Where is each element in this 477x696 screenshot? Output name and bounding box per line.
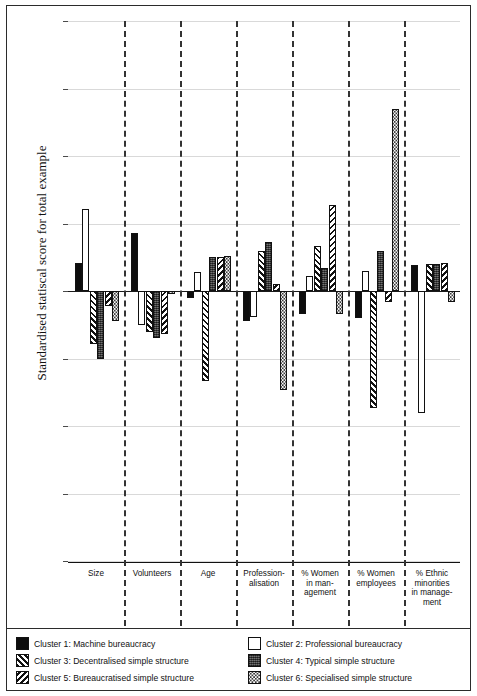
- y-tick-mark: [63, 89, 68, 90]
- y-tick-mark: [63, 494, 68, 495]
- category-label-line: Age: [180, 569, 236, 579]
- y-tick-mark: [63, 224, 68, 225]
- legend-swatch-c5-icon: [16, 671, 29, 684]
- category-label-line: Size: [68, 569, 124, 579]
- y-tick-mark: [63, 561, 68, 562]
- legend-swatch-c3-icon: [16, 654, 29, 667]
- category-label-line: agement: [292, 588, 348, 598]
- group-separator-4: [292, 21, 294, 626]
- bar-c2-group-4: [250, 291, 257, 317]
- bar-c4-group-2: [153, 291, 160, 338]
- bar-c4-group-1: [97, 291, 104, 359]
- category-label-5: % Womenin man-agement: [292, 569, 348, 598]
- category-label-3: Age: [180, 569, 236, 579]
- bar-c5-group-6: [385, 291, 392, 302]
- gridline: [68, 561, 460, 562]
- group-separator-3: [236, 21, 238, 626]
- category-label-line: employees: [348, 579, 404, 589]
- category-label-line: ment: [404, 598, 460, 608]
- bar-c5-group-1: [105, 291, 112, 306]
- category-label-7: % Ethnicminoritiesin manage-ment: [404, 569, 460, 607]
- group-separator-6: [404, 21, 406, 626]
- bar-c6-group-5: [336, 291, 343, 314]
- bar-c1-group-6: [355, 291, 362, 318]
- legend-item-c4: Cluster 4: Typical simple structure: [248, 654, 395, 667]
- category-label-line: alisation: [236, 579, 292, 589]
- bar-c2-group-1: [82, 209, 89, 291]
- bar-c6-group-1: [112, 291, 119, 321]
- category-label-line: % Ethnic: [404, 569, 460, 579]
- category-label-line: Volunteers: [124, 569, 180, 579]
- category-label-line: in man-: [292, 579, 348, 589]
- bar-c4-group-4: [265, 242, 272, 291]
- category-label-line: in manage-: [404, 588, 460, 598]
- gridline: [68, 156, 460, 157]
- bar-c4-group-7: [433, 264, 440, 291]
- category-label-6: % Womenemployees: [348, 569, 404, 588]
- category-label-2: Volunteers: [124, 569, 180, 579]
- bar-c6-group-6: [392, 109, 399, 291]
- bar-c4-group-5: [321, 268, 328, 291]
- plot-area: [68, 21, 460, 561]
- bar-c1-group-1: [75, 263, 82, 291]
- bar-c3-group-2: [146, 291, 153, 332]
- bar-c6-group-2: [168, 291, 175, 294]
- gridline: [68, 359, 460, 360]
- chart-page: Standardised statiscal score for total e…: [0, 0, 477, 696]
- legend-item-c6: Cluster 6: Specialised simple structure: [248, 671, 412, 684]
- gridline: [68, 426, 460, 427]
- y-tick-mark: [63, 359, 68, 360]
- bar-c1-group-5: [299, 291, 306, 314]
- bar-c3-group-1: [90, 291, 97, 344]
- bar-c2-group-3: [194, 272, 201, 291]
- zero-line: [68, 291, 460, 292]
- legend-item-c1: Cluster 1: Machine bureaucracy: [16, 637, 155, 650]
- category-label-line: Profession-: [236, 569, 292, 579]
- bar-c1-group-2: [131, 233, 138, 291]
- legend-divider: [7, 628, 470, 629]
- category-label-4: Profession-alisation: [236, 569, 292, 588]
- legend-swatch-c1-icon: [16, 637, 29, 650]
- bar-c5-group-5: [329, 205, 336, 291]
- bar-c1-group-7: [411, 265, 418, 291]
- group-separator-5: [348, 21, 350, 626]
- bar-c3-group-5: [314, 246, 321, 291]
- bar-c2-group-5: [306, 276, 313, 291]
- legend-swatch-c2-icon: [248, 637, 261, 650]
- x-axis-category-labels: SizeVolunteersAgeProfession-alisation% W…: [0, 565, 477, 627]
- legend-item-c2: Cluster 2: Professional bureaucracy: [248, 637, 402, 650]
- bar-c4-group-3: [209, 257, 216, 291]
- y-tick-mark: [63, 156, 68, 157]
- gridline: [68, 494, 460, 495]
- legend-label: Cluster 3: Decentralised simple structur…: [34, 656, 189, 666]
- gridline: [68, 21, 460, 22]
- category-label-line: % Women: [292, 569, 348, 579]
- bar-c3-group-4: [258, 251, 265, 292]
- legend-label: Cluster 6: Specialised simple structure: [266, 673, 412, 683]
- y-tick-mark: [63, 291, 68, 292]
- group-separator-1: [124, 21, 126, 626]
- bar-c5-group-2: [161, 291, 168, 334]
- bar-c5-group-4: [273, 284, 280, 291]
- bar-c2-group-6: [362, 271, 369, 291]
- bar-c3-group-7: [426, 264, 433, 291]
- bar-c1-group-3: [187, 291, 194, 298]
- bar-c6-group-7: [448, 291, 455, 302]
- legend-label: Cluster 4: Typical simple structure: [266, 656, 395, 666]
- legend-label: Cluster 5: Bureaucratised simple structu…: [34, 673, 194, 683]
- bar-c1-group-4: [243, 291, 250, 321]
- gridline: [68, 89, 460, 90]
- bar-c3-group-3: [202, 291, 209, 381]
- category-label-line: minorities: [404, 579, 460, 589]
- category-label-1: Size: [68, 569, 124, 579]
- bar-c5-group-3: [217, 257, 224, 291]
- category-label-line: % Women: [348, 569, 404, 579]
- bar-c2-group-2: [138, 291, 145, 325]
- legend: Cluster 1: Machine bureaucracyCluster 2:…: [16, 637, 462, 687]
- legend-swatch-c6-icon: [248, 671, 261, 684]
- y-tick-mark: [63, 426, 68, 427]
- legend-item-c3: Cluster 3: Decentralised simple structur…: [16, 654, 189, 667]
- legend-label: Cluster 2: Professional bureaucracy: [266, 639, 402, 649]
- legend-label: Cluster 1: Machine bureaucracy: [34, 639, 155, 649]
- bar-c6-group-4: [280, 291, 287, 390]
